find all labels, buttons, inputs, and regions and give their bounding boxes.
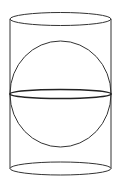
sphere-outline [10,41,111,147]
sphere-equator [10,90,111,99]
cylinder-bottom-ellipse [10,162,111,175]
cylinder-top-ellipse [10,13,111,26]
cylinder-sphere-diagram [0,0,118,183]
